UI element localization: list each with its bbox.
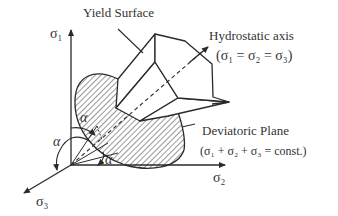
alpha-label-right: α <box>105 152 112 168</box>
sigma3-axis <box>24 165 71 193</box>
alpha-label-top: α <box>80 110 87 126</box>
sigma2-label: σ₂ <box>213 170 225 186</box>
sigma1-label: σ₁ <box>50 26 62 42</box>
deviatoric-equation: (σ₁ + σ₂ + σ₃ = const.) <box>200 144 307 159</box>
yield-surface-label: Yield Surface <box>83 5 154 21</box>
deviatoric-plane-leader <box>182 124 195 127</box>
hydrostatic-axis-label: Hydrostatic axis <box>209 28 294 44</box>
hydrostatic-equation: (σ₁ = σ₂ = σ₃) <box>216 48 292 64</box>
alpha-label-left: α <box>53 134 60 150</box>
deviatoric-plane-label: Deviatoric Plane <box>202 123 289 139</box>
sigma3-label: σ₃ <box>36 194 48 210</box>
yield-surface-leader <box>118 29 143 53</box>
